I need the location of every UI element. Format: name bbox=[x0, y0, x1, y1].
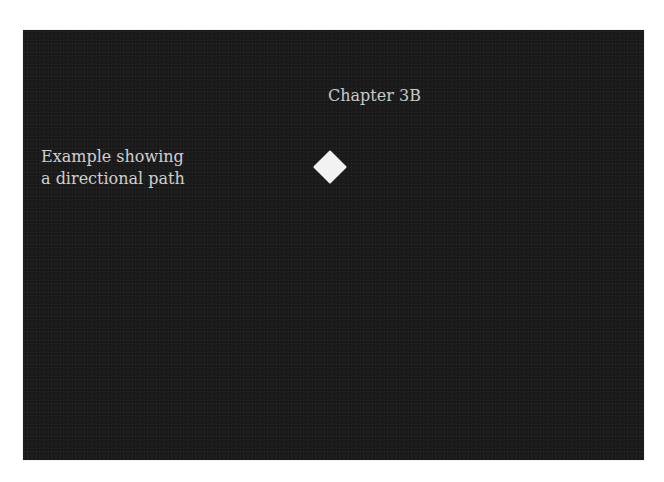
chapter-title: Chapter 3B bbox=[328, 86, 421, 105]
caption-line-1: Example showing bbox=[41, 146, 185, 168]
caption: Example showing a directional path bbox=[41, 146, 185, 190]
dark-panel: Chapter 3B Example showing a directional… bbox=[23, 30, 644, 460]
caption-line-2: a directional path bbox=[41, 168, 185, 190]
diamond-icon bbox=[313, 150, 347, 184]
